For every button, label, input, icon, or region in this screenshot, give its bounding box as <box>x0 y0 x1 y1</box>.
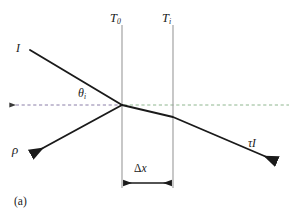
transmitted-ray-line <box>122 105 276 161</box>
figure-caption: (a) <box>14 196 27 208</box>
boundary-label-Ti: Ti <box>162 12 171 25</box>
reflected-ray-label: ρ <box>12 143 18 156</box>
incident-ray-label: I <box>16 42 20 54</box>
reflected-ray-line <box>32 105 122 154</box>
diagram-canvas <box>0 0 293 218</box>
transmitted-ray-label: τI <box>248 138 256 150</box>
incident-angle-label: θi <box>78 87 86 100</box>
boundary-label-T0: T0 <box>110 12 121 25</box>
thickness-label: Δx <box>134 163 147 175</box>
incident-ray-line <box>30 50 122 105</box>
optics-refraction-figure: T0 Ti I θi ρ τI Δx (a) <box>0 0 293 218</box>
incident-angle-arc <box>100 97 104 105</box>
